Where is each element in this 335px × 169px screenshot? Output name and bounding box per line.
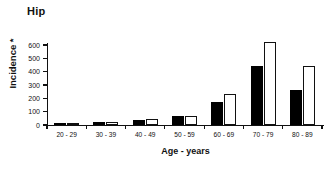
bar-series-solid-40-49 [133,120,145,125]
x-tick-mark [86,125,87,129]
bar-series-hollow-20-29 [67,123,79,125]
bar-series-hollow-40-49 [146,119,158,125]
y-tick-label: 200 [16,95,40,102]
y-tick-label: 500 [16,55,40,62]
y-tick-label: 600 [16,42,40,49]
bar-series-solid-70-79 [251,66,263,125]
bar-series-hollow-80-89 [303,66,315,125]
x-tick-mark [321,125,322,129]
chart-figure: Hip Incidence * 0100200300400500600 20 -… [0,0,335,169]
bar-series-hollow-30-39 [106,122,118,125]
bar-series-hollow-70-79 [264,42,276,125]
bar-series-solid-60-69 [211,102,223,125]
plot-area [47,45,322,125]
x-tick-label: 80 - 89 [276,131,328,138]
x-tick-mark [46,125,47,129]
y-tick-label: 300 [16,82,40,89]
x-tick-mark [164,125,165,129]
x-tick-mark [243,125,244,129]
y-tick-label: 100 [16,108,40,115]
x-axis-title: Age - years [47,146,324,156]
bar-series-solid-30-39 [93,122,105,125]
x-tick-mark [204,125,205,129]
y-tick-label: 400 [16,68,40,75]
chart-title: Hip [27,5,45,17]
x-tick-mark [125,125,126,129]
bar-series-solid-20-29 [54,123,66,125]
bar-series-hollow-50-59 [185,116,197,125]
y-axis-label: Incidence * [7,28,18,100]
x-tick-mark [282,125,283,129]
bar-series-hollow-60-69 [224,94,236,125]
bar-series-solid-80-89 [290,90,302,125]
bar-series-solid-50-59 [172,116,184,125]
y-tick-label: 0 [16,122,40,129]
